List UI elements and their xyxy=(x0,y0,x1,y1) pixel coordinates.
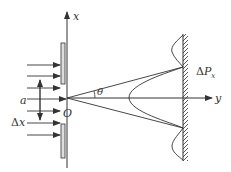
upper-side-lobe xyxy=(172,35,183,67)
x-axis-label: x xyxy=(73,10,80,23)
lower-slit-plate xyxy=(61,124,65,158)
angle-label: θ xyxy=(97,86,103,97)
diffraction-diagram: x y a Δx O θ ΔPx xyxy=(0,0,231,172)
delta-p-label: ΔPx xyxy=(196,65,215,80)
origin-label: O xyxy=(63,107,72,120)
upper-slit-plate xyxy=(61,43,65,84)
angle-arc xyxy=(94,91,95,98)
lower-diffracted-ray xyxy=(67,98,183,128)
slit-width-label: a xyxy=(20,94,27,107)
upper-diffracted-ray xyxy=(67,67,183,98)
lower-side-lobe xyxy=(172,128,183,160)
delta-x-label: Δx xyxy=(11,116,26,129)
screen-hatching xyxy=(183,34,188,161)
incident-rays xyxy=(27,65,66,135)
y-axis-label: y xyxy=(214,92,222,105)
